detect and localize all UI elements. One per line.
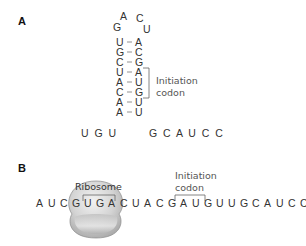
panel-b-label: B xyxy=(18,162,26,174)
loop-nucleotide: G xyxy=(113,21,121,33)
nucleotide: A xyxy=(36,197,43,209)
nucleotide: U xyxy=(192,197,200,209)
translation-initiation-diagram: A G A C U U A G C C G U A A xyxy=(0,0,306,246)
stem-pair: A U xyxy=(116,106,143,118)
nucleotide: G xyxy=(240,197,248,209)
nucleotide: A xyxy=(108,197,115,209)
stem-left-nucleotide: A xyxy=(116,106,123,118)
nucleotide: U xyxy=(216,197,224,209)
nucleotide: C xyxy=(288,197,296,209)
nucleotide: U xyxy=(84,197,92,209)
nucleotide: C xyxy=(252,197,260,209)
stem-right-nucleotide: U xyxy=(135,106,143,118)
nucleotide: C xyxy=(300,197,306,209)
five-prime-tail: U G U xyxy=(81,127,118,139)
loop-nucleotide: A xyxy=(120,10,127,22)
nucleotide: A xyxy=(264,197,271,209)
panel-a-label: A xyxy=(18,15,26,27)
mrna-sequence: A U C G U G A C U A C G A U G U U G C A … xyxy=(36,197,306,209)
nucleotide: C xyxy=(60,197,68,209)
initiation-codon-label-a-line2: codon xyxy=(156,87,185,98)
three-prime-tail: G C A U C C xyxy=(149,127,224,139)
ribosome-label: Ribosome xyxy=(75,181,122,192)
nucleotide: A xyxy=(180,197,187,209)
nucleotide: U xyxy=(132,197,140,209)
nucleotide: U xyxy=(276,197,284,209)
initiation-codon-label-b-line2: codon xyxy=(175,182,204,193)
nucleotide: G xyxy=(96,197,104,209)
initiation-codon-bracket-a xyxy=(143,68,149,98)
initiation-codon-label-a-line1: Initiation xyxy=(156,75,198,86)
nucleotide: A xyxy=(144,197,151,209)
loop-nucleotide: U xyxy=(143,23,151,35)
nucleotide: G xyxy=(204,197,212,209)
nucleotide: U xyxy=(228,197,236,209)
hairpin-loop: G A C U xyxy=(113,10,151,35)
nucleotide: C xyxy=(120,197,128,209)
nucleotide: U xyxy=(48,197,56,209)
nucleotide: G xyxy=(72,197,80,209)
hairpin-stem: U A G C C G U A A U C G A xyxy=(116,36,143,118)
initiation-codon-label-b-line1: Initiation xyxy=(175,170,217,181)
nucleotide: G xyxy=(168,197,176,209)
nucleotide: C xyxy=(156,197,164,209)
